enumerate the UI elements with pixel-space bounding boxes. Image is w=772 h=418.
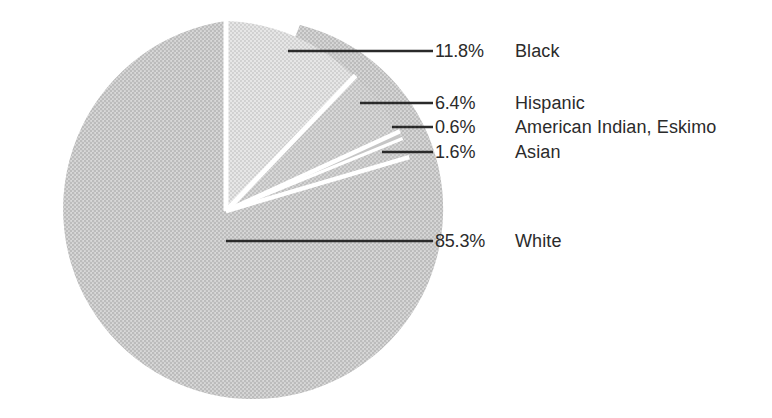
callout-american-indian-eskimo-value: 0.6% bbox=[435, 117, 503, 138]
pie-chart-canvas bbox=[0, 0, 772, 418]
callout-black-label: Black bbox=[515, 41, 560, 62]
callout-black-value: 11.8% bbox=[435, 41, 503, 62]
callout-asian-label: Asian bbox=[515, 142, 561, 163]
callout-american-indian-eskimo-label: American Indian, Eskimo bbox=[515, 117, 716, 138]
callout-hispanic: 6.4% Hispanic bbox=[435, 91, 585, 115]
callout-american-indian-eskimo: 0.6% American Indian, Eskimo bbox=[435, 115, 716, 139]
pie-chart-figure: 11.8% Black 6.4% Hispanic 0.6% American … bbox=[0, 0, 772, 418]
callout-white-label: White bbox=[515, 231, 562, 252]
callout-asian: 1.6% Asian bbox=[435, 140, 561, 164]
callout-black: 11.8% Black bbox=[435, 39, 560, 63]
callout-asian-value: 1.6% bbox=[435, 142, 503, 163]
callout-white: 85.3% White bbox=[435, 229, 562, 253]
callout-white-value: 85.3% bbox=[435, 231, 503, 252]
pie-slices bbox=[63, 18, 443, 399]
callout-hispanic-label: Hispanic bbox=[515, 93, 585, 114]
callout-hispanic-value: 6.4% bbox=[435, 93, 503, 114]
